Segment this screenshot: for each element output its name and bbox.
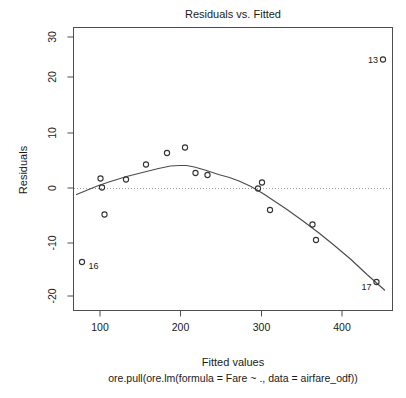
data-point bbox=[313, 237, 318, 242]
data-point bbox=[102, 212, 107, 217]
plot-frame bbox=[74, 28, 393, 311]
data-point bbox=[259, 180, 264, 185]
data-point bbox=[193, 170, 198, 175]
point-label-16: 16 bbox=[89, 261, 99, 271]
r-diagnostic-plot-screenshot: Residuals vs. Fitted 30 20 10 0 -10 -20 … bbox=[0, 0, 406, 398]
data-point bbox=[182, 145, 187, 150]
point-label-13: 13 bbox=[368, 55, 378, 65]
data-point bbox=[380, 57, 385, 62]
data-point bbox=[79, 259, 84, 264]
y-tick-label-20: 20 bbox=[46, 71, 58, 83]
data-point bbox=[310, 222, 315, 227]
x-tick-label-200: 200 bbox=[172, 321, 190, 333]
x-axis-ticks bbox=[100, 311, 342, 317]
y-axis-ticks bbox=[68, 37, 74, 296]
point-label-17: 17 bbox=[361, 282, 371, 292]
y-tick-label-minus10: -10 bbox=[46, 235, 58, 250]
data-point bbox=[123, 177, 128, 182]
x-tick-label-100: 100 bbox=[91, 321, 109, 333]
data-point bbox=[267, 207, 272, 212]
data-point bbox=[98, 176, 103, 181]
x-axis-title: Fitted values bbox=[202, 356, 265, 368]
y-tick-label-minus20: -20 bbox=[46, 288, 58, 303]
lowess-smoother-curve bbox=[77, 166, 385, 291]
y-tick-label-10: 10 bbox=[46, 127, 58, 139]
x-tick-label-400: 400 bbox=[333, 321, 351, 333]
data-point bbox=[99, 185, 104, 190]
y-tick-label-30: 30 bbox=[46, 31, 58, 43]
y-axis-title: Residuals bbox=[17, 145, 29, 194]
residuals-vs-fitted-plot: Residuals vs. Fitted 30 20 10 0 -10 -20 … bbox=[0, 0, 406, 398]
data-point bbox=[205, 172, 210, 177]
x-tick-label-300: 300 bbox=[253, 321, 271, 333]
chart-title: Residuals vs. Fitted bbox=[185, 8, 281, 20]
plot-subtitle: ore.pull(ore.lm(formula = Fare ~ ., data… bbox=[108, 372, 357, 384]
y-tick-label-0: 0 bbox=[46, 185, 58, 191]
data-point bbox=[143, 162, 148, 167]
data-point bbox=[164, 150, 169, 155]
